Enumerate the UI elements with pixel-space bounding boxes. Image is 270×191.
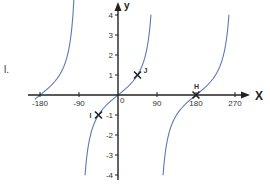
y-tick-label: -4 — [106, 171, 114, 180]
y-tick-label: 2 — [109, 51, 114, 60]
point-label-h: H — [194, 83, 199, 90]
y-axis-arrow-icon — [115, 2, 122, 11]
x-tick-label: 270 — [228, 99, 242, 108]
point-marker-j-icon — [134, 72, 141, 79]
origin-label: 0 — [120, 96, 125, 105]
x-axis-arrow-icon — [241, 92, 250, 99]
x-tick-label: -180 — [32, 99, 49, 108]
y-tick-label: -1 — [106, 111, 114, 120]
x-tick-label: 90 — [153, 99, 162, 108]
x-tick-label: -90 — [73, 99, 85, 108]
tan-branch-0 — [35, 0, 74, 99]
x-axis-title: X — [255, 89, 263, 103]
point-marker-i-icon — [95, 112, 102, 119]
y-axis-title: y — [124, 0, 130, 11]
tan-curves — [35, 0, 229, 175]
point-label-i: I — [90, 112, 92, 119]
x-tick-label: 180 — [189, 99, 203, 108]
y-tick-label: -3 — [106, 151, 114, 160]
y-tick-label: 1 — [109, 71, 114, 80]
tangent-graph: Xy -180-9090180270-4-3-2-112340 JIH — [0, 0, 270, 191]
y-tick-label: 3 — [109, 31, 114, 40]
y-tick-label: -2 — [106, 131, 114, 140]
point-label-j: J — [144, 67, 148, 74]
y-tick-label: 4 — [109, 11, 114, 20]
